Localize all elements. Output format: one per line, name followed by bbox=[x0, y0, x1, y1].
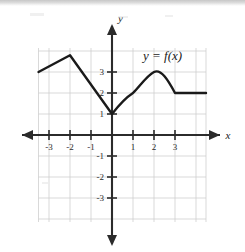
function-label: y = f(x) bbox=[141, 48, 182, 63]
y-axis-arrow-up bbox=[107, 24, 117, 35]
y-tick-label-1: 1 bbox=[100, 109, 105, 119]
y-tick-label-3: 3 bbox=[100, 67, 105, 77]
x-axis-arrow-right bbox=[209, 130, 220, 140]
y-tick-label--1: -1 bbox=[97, 151, 105, 161]
y-axis-arrow-down bbox=[107, 235, 117, 246]
x-axis-arrow-left bbox=[22, 130, 33, 140]
x-tick-label-3: 3 bbox=[173, 142, 178, 152]
graph-figure: -3 -2 -1 1 2 3 3 2 1 -1 -2 -3 y x y = f(… bbox=[0, 0, 245, 252]
x-tick-label--1: -1 bbox=[87, 142, 95, 152]
x-tick-label-1: 1 bbox=[131, 142, 136, 152]
scan-artifact-band bbox=[0, 0, 245, 6]
y-axis-label: y bbox=[117, 12, 123, 24]
scan-speck bbox=[30, 13, 44, 16]
x-tick-label-2: 2 bbox=[152, 142, 157, 152]
y-tick-label--2: -2 bbox=[97, 172, 105, 182]
x-tick-label--2: -2 bbox=[66, 142, 74, 152]
coordinate-plane: -3 -2 -1 1 2 3 3 2 1 -1 -2 -3 y x y = f(… bbox=[0, 0, 245, 252]
scan-speck bbox=[42, 182, 48, 184]
y-tick-label--3: -3 bbox=[97, 193, 105, 203]
x-axis-label: x bbox=[225, 129, 231, 141]
axes bbox=[22, 24, 220, 246]
x-tick-label--3: -3 bbox=[45, 142, 53, 152]
function-curve bbox=[39, 55, 207, 114]
scan-speck bbox=[118, 16, 128, 18]
scan-speck bbox=[165, 15, 173, 17]
